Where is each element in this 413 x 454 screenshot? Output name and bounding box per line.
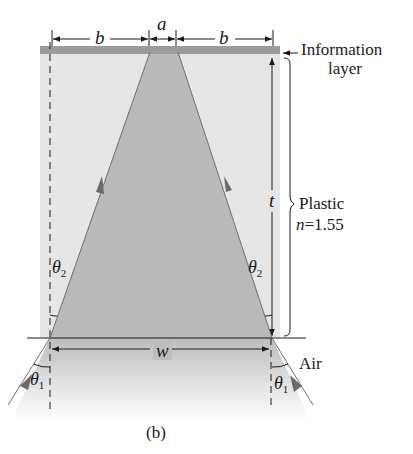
label-b-left: b: [95, 28, 105, 47]
label-t: t: [267, 191, 276, 210]
label-w: w: [153, 341, 172, 360]
label-theta2-left: θ2: [52, 258, 66, 279]
label-b-right: b: [219, 28, 229, 47]
label-theta1-right: θ1: [274, 374, 288, 395]
label-air: Air: [299, 355, 322, 372]
label-refractive-index: n=1.55: [296, 216, 344, 233]
figure-caption: (b): [146, 424, 166, 441]
label-theta2-right: θ2: [248, 258, 262, 279]
label-theta1-left: θ1: [30, 370, 44, 391]
plastic-brace: [284, 58, 294, 336]
label-plastic: Plastic: [299, 195, 344, 212]
label-layer: layer: [328, 60, 362, 77]
label-information: Information: [301, 41, 382, 58]
information-layer: [40, 46, 280, 54]
label-a: a: [157, 14, 167, 33]
